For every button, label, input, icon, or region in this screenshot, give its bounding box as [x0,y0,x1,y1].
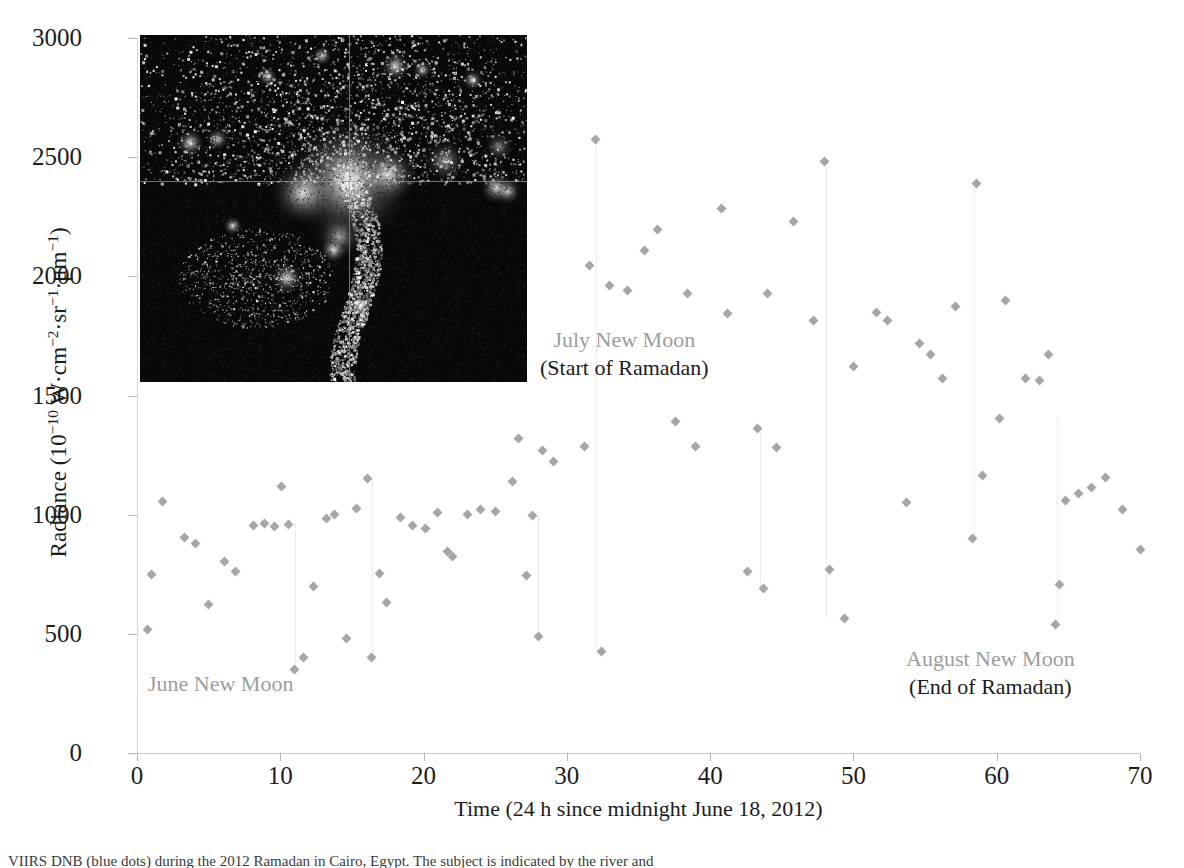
data-point-marker [308,581,318,591]
y-tick-mark [128,515,137,516]
data-point-marker [513,433,523,443]
data-point-marker [1043,350,1053,360]
data-point-marker [248,520,258,530]
data-point-marker [260,518,270,528]
data-point-marker [146,569,156,579]
annotation-june-line1: June New Moon [148,670,293,698]
x-tick-label: 60 [957,763,1037,788]
data-point-marker [277,481,287,491]
data-point-marker [585,261,595,271]
data-point-marker [824,565,834,575]
data-point-marker [420,524,430,534]
series-connector-line [372,479,373,658]
y-tick-label: 0 [0,740,82,765]
data-point-marker [381,598,391,608]
data-point-marker [1055,580,1065,590]
viirs-dnb-nighttime-lights-inset [140,35,527,382]
data-point-marker [722,308,732,318]
data-point-marker [742,567,752,577]
x-tick-mark [853,753,854,761]
data-point-marker [549,456,559,466]
data-point-marker [788,217,798,227]
series-connector-line [974,183,975,538]
data-point-marker [605,281,615,291]
data-point-marker [191,538,201,548]
data-point-marker [463,510,473,520]
data-point-marker [298,653,308,663]
data-point-marker [926,350,936,360]
data-point-marker [528,511,538,521]
x-tick-label: 30 [527,763,607,788]
data-point-marker [179,532,189,542]
data-point-marker [639,245,649,255]
data-point-marker [717,203,727,213]
data-point-marker [538,445,548,455]
y-axis-title-mid2: ·sr [46,306,71,331]
data-point-marker [591,134,601,144]
x-tick-mark [567,753,568,761]
series-connector-line [1057,418,1058,624]
y-tick-label: 500 [0,621,82,646]
data-point-marker [490,506,500,516]
data-point-marker [533,631,543,641]
figure-caption: VIIRS DNB (blue dots) during the 2012 Ra… [8,853,1184,868]
data-point-marker [901,498,911,508]
y-axis-exponent-10: −10 [44,410,61,434]
annotation-july-line1: July New Moon [540,326,709,354]
data-point-marker [1101,473,1111,483]
data-point-marker [330,510,340,520]
series-connector-line [826,162,827,618]
x-axis-line [137,753,1141,754]
data-point-marker [995,413,1005,423]
data-point-marker [691,442,701,452]
annotation-july-new-moon: July New Moon (Start of Ramadan) [540,326,709,382]
data-point-marker [396,512,406,522]
data-point-marker [950,301,960,311]
data-point-marker [219,556,229,566]
y-tick-mark [128,753,137,754]
x-tick-mark [137,753,138,761]
data-point-marker [967,534,977,544]
data-point-marker [1086,482,1096,492]
data-point-marker [1051,619,1061,629]
data-point-marker [848,362,858,372]
data-point-marker [142,624,152,634]
y-tick-label: 1500 [0,383,82,408]
y-tick-label: 1000 [0,502,82,527]
annotation-august-line1: August New Moon [906,645,1075,673]
y-axis-exponent-um: −1 [44,235,61,251]
data-point-marker [840,613,850,623]
x-tick-label: 0 [97,763,177,788]
data-point-marker [433,507,443,517]
data-point-marker [341,634,351,644]
data-point-marker [407,520,417,530]
x-tick-label: 40 [670,763,750,788]
data-point-marker [443,547,453,557]
data-point-marker [476,505,486,515]
data-point-marker [1035,375,1045,385]
data-point-marker [363,474,373,484]
x-tick-label: 70 [1100,763,1180,788]
data-point-marker [652,225,662,235]
data-point-marker [231,567,241,577]
series-connector-line [538,516,539,636]
data-point-marker [1020,374,1030,384]
x-tick-mark [997,753,998,761]
data-point-marker [1118,505,1128,515]
annotation-june-new-moon: June New Moon [148,670,293,698]
x-tick-mark [280,753,281,761]
data-point-marker [447,551,457,561]
data-point-marker [977,470,987,480]
data-point-marker [671,417,681,427]
data-point-marker [284,519,294,529]
data-point-marker [763,288,773,298]
y-tick-mark [128,634,137,635]
data-point-marker [374,568,384,578]
y-axis-exponent-cm: −2 [44,331,61,347]
data-point-marker [808,315,818,325]
figure-radiance-vs-time: Radiance (10−10 W·cm−2·sr−1·μm−1) Time (… [0,0,1184,868]
y-tick-mark [128,38,137,39]
x-tick-mark [710,753,711,761]
annotation-august-new-moon: August New Moon (End of Ramadan) [906,645,1075,701]
y-tick-label: 3000 [0,25,82,50]
